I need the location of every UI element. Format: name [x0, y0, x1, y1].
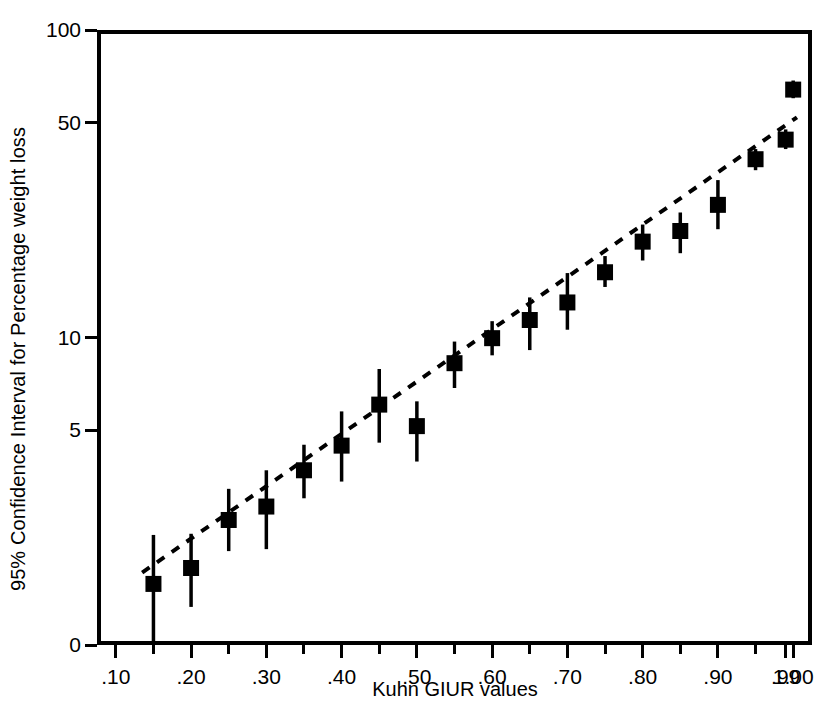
y-axis-tick [85, 336, 97, 339]
x-axis-tick [566, 645, 569, 658]
x-axis-tick [491, 645, 494, 658]
data-point [145, 535, 161, 645]
marker-square [409, 418, 425, 434]
y-axis-title-text: 95% Confidence Interval for Percentage w… [7, 127, 30, 591]
y-axis-tick [85, 121, 97, 124]
y-axis-tick [85, 29, 97, 32]
chart-figure: 95% Confidence Interval for Percentage w… [0, 0, 837, 718]
x-axis-minor-tick [754, 645, 757, 654]
x-axis-minor-tick [152, 645, 155, 654]
data-point [597, 256, 613, 287]
marker-square [785, 82, 801, 98]
data-point [522, 297, 538, 350]
x-axis-tick [114, 645, 117, 658]
marker-square [778, 132, 794, 148]
y-axis-tick-label: 100 [46, 18, 81, 42]
trend-line [142, 117, 797, 572]
data-point [409, 401, 425, 461]
error-bar-series [145, 81, 801, 645]
marker-square [635, 234, 651, 250]
trend-line-path [142, 117, 797, 572]
data-point [221, 489, 237, 551]
x-axis-minor-tick [679, 645, 682, 654]
y-axis-tick [85, 429, 97, 432]
marker-square [296, 462, 312, 478]
y-axis-tick-label: 5 [69, 418, 81, 442]
marker-square [710, 197, 726, 213]
marker-square [597, 264, 613, 280]
x-axis-tick [716, 645, 719, 658]
data-point [778, 129, 794, 149]
x-axis-minor-tick [453, 645, 456, 654]
marker-square [145, 576, 161, 592]
data-point [258, 470, 274, 549]
data-point [710, 180, 726, 229]
marker-square [484, 330, 500, 346]
marker-square [221, 512, 237, 528]
data-point [334, 411, 350, 481]
marker-square [522, 312, 538, 328]
data-point [371, 369, 387, 443]
x-axis-tick [265, 645, 268, 658]
marker-square [559, 294, 575, 310]
marker-square [371, 397, 387, 413]
x-axis-title-text: Kuhn GIUR values [372, 678, 538, 700]
x-axis-minor-tick [528, 645, 531, 654]
y-axis-title: 95% Confidence Interval for Percentage w… [0, 0, 36, 718]
x-axis-tick [190, 645, 193, 658]
marker-square [672, 223, 688, 239]
x-axis-title: Kuhn GIUR values [97, 678, 813, 701]
x-axis-tick [784, 645, 787, 658]
marker-square [258, 499, 274, 515]
marker-square [183, 560, 199, 576]
x-axis-tick [792, 645, 795, 658]
data-point [296, 445, 312, 499]
data-point [785, 81, 801, 99]
y-axis-tick-label: 10 [58, 326, 81, 350]
x-axis-minor-tick [378, 645, 381, 654]
marker-square [334, 438, 350, 454]
marker-square [748, 151, 764, 167]
plot-area: 051050100 .10.20.30.40.50.60.70.80.90.99… [97, 30, 812, 645]
data-point [748, 149, 764, 170]
x-axis-tick [415, 645, 418, 658]
marker-square [447, 355, 463, 371]
x-axis-tick [641, 645, 644, 658]
x-axis-minor-tick [227, 645, 230, 654]
data-point [672, 212, 688, 253]
x-axis-tick [340, 645, 343, 658]
y-axis-tick [85, 644, 97, 647]
x-axis-minor-tick [604, 645, 607, 654]
y-axis-tick-label: 0 [69, 633, 81, 657]
data-point [447, 342, 463, 388]
y-axis-tick-label: 50 [58, 111, 81, 135]
x-axis-minor-tick [302, 645, 305, 654]
data-point [183, 534, 199, 607]
data-series-layer [97, 30, 812, 645]
